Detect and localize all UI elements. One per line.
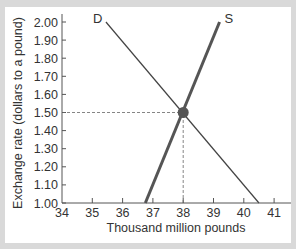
x-tick-label: 38 [176, 206, 190, 220]
x-tick-label: 35 [85, 206, 99, 220]
demand-label: D [93, 11, 102, 26]
x-tick-label: 39 [207, 206, 221, 220]
x-axis-title: Thousand million pounds [107, 221, 246, 235]
x-tick-label: 41 [267, 206, 281, 220]
y-tick-label: 1.70 [34, 70, 58, 84]
y-tick-label: 1.30 [34, 142, 58, 156]
y-tick-label: 1.40 [34, 124, 58, 138]
equilibrium-point [178, 107, 189, 118]
y-tick-label: 1.10 [34, 178, 58, 192]
x-tick-label: 36 [116, 206, 130, 220]
supply-demand-chart: 1.001.101.201.301.401.501.601.701.801.90… [0, 0, 296, 249]
y-tick-label: 1.80 [34, 52, 58, 66]
y-tick-label: 2.00 [34, 16, 58, 30]
y-tick-label: 1.60 [34, 88, 58, 102]
y-axis-title: Exchange rate (dollars to a pound) [11, 17, 25, 209]
y-axis-ticks: 1.001.101.201.301.401.501.601.701.801.90… [34, 16, 66, 211]
x-tick-label: 40 [237, 206, 251, 220]
y-tick-label: 1.90 [34, 34, 58, 48]
x-tick-label: 37 [146, 206, 160, 220]
supply-label: S [225, 11, 234, 26]
x-tick-label: 34 [55, 206, 69, 220]
x-axis-ticks: 3435363738394041 [55, 198, 281, 220]
y-tick-label: 1.50 [34, 106, 58, 120]
curves: DS [93, 11, 259, 203]
y-tick-label: 1.20 [34, 160, 58, 174]
